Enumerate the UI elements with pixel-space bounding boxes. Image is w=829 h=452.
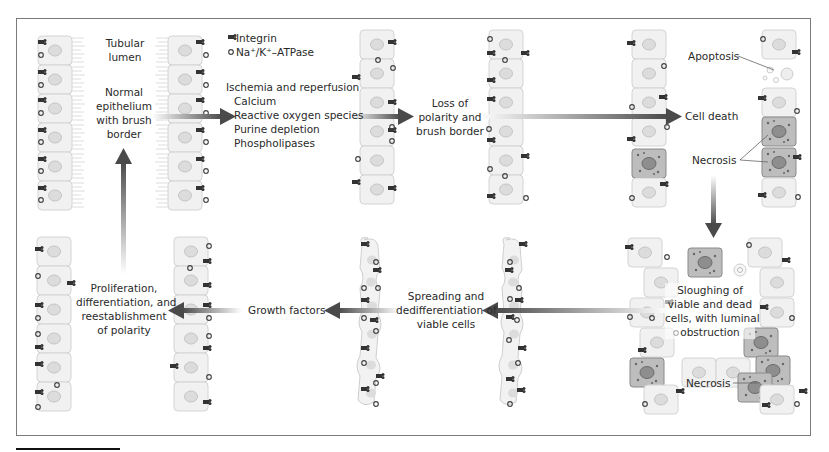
label-normal-epithelium: Normalepithelium with brushborder [93, 85, 155, 141]
label-apoptosis: Apoptosis [688, 49, 739, 63]
label-insults: Ischemia and reperfusion Calcium Reactiv… [226, 80, 363, 150]
arrow-proliferation-to-normal [115, 148, 132, 274]
label-spreading: Spreading anddedifferentiation ofviable … [396, 289, 496, 331]
legend-atpase: Na⁺/K⁺–ATPase [236, 45, 314, 59]
atpase-icon [229, 50, 234, 55]
recovered-column-left [35, 237, 76, 411]
normal-epithelium-left [38, 36, 85, 210]
label-proliferation: Proliferation,differentiation, and reest… [76, 281, 172, 337]
spreading-column-left [357, 238, 385, 407]
label-sloughing: Sloughing ofviable and dead cells, with … [665, 283, 755, 339]
label-necrosis-bottom: Necrosis [686, 376, 730, 390]
label-necrosis-top: Necrosis [692, 153, 736, 167]
label-growth-factors: Growth factors [248, 303, 326, 317]
spreading-column-right [499, 238, 528, 407]
apoptosis-necrosis-column [758, 30, 802, 207]
arrow-death-to-sloughing [705, 175, 722, 238]
recovered-column-right [170, 237, 212, 411]
label-loss-polarity: Loss ofpolarity andbrush border [410, 96, 490, 138]
apoptotic-cell [763, 67, 793, 83]
label-cell-death: Cell death [685, 109, 738, 123]
normal-epithelium-right [155, 36, 208, 210]
legend-integrin: Integrin [236, 31, 277, 45]
label-tubular-lumen: Tubularlumen [100, 36, 150, 64]
